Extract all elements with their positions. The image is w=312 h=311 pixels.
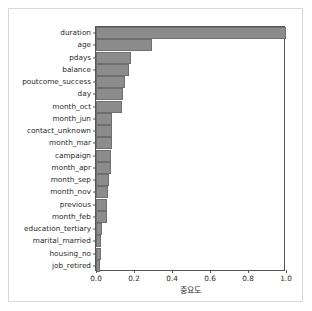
bar-row: month_jun [96,113,286,125]
bar-row: contact_unknown [96,125,286,137]
bar-row: month_apr [96,162,286,174]
y-tick-label-month_sep: month_sep [51,176,91,183]
y-tick-label-balance: balance [62,66,91,73]
bar-age [96,39,152,51]
bar-poutcome_success [96,76,125,88]
bar-pdays [96,52,131,64]
y-tick-mark [93,69,96,70]
y-tick-mark [93,180,96,181]
bar-row: pdays [96,52,286,64]
y-tick-label-poutcome_success: poutcome_success [22,78,91,85]
y-tick-mark [93,192,96,193]
y-tick-label-job_retired: job_retired [52,262,91,269]
bar-row: month_feb [96,211,286,223]
y-tick-label-day: day [78,91,91,98]
bar-month_feb [96,211,107,223]
y-tick-mark [93,167,96,168]
y-tick-label-marital_married: marital_married [33,238,91,245]
bar-row: day [96,88,286,100]
chart-axes: durationagepdaysbalancepoutcome_successd… [95,26,285,271]
x-tick-label: 0.0 [90,275,102,282]
x-axis-title: 중요도 [180,287,201,295]
x-tick-mark [210,270,211,273]
x-tick-label: 0.4 [166,275,178,282]
bar-campaign [96,150,111,162]
bar-row: job_retired [96,260,286,272]
bar-row: month_sep [96,174,286,186]
bar-contact_unknown [96,125,112,137]
x-tick-mark [172,270,173,273]
y-tick-mark [93,33,96,34]
x-tick-label: 0.2 [128,275,140,282]
bar-balance [96,64,129,76]
x-tick-label: 0.6 [204,275,216,282]
y-tick-mark [93,82,96,83]
y-tick-mark [93,241,96,242]
y-tick-label-campaign: campaign [55,152,91,159]
y-tick-mark [93,229,96,230]
bar-row: age [96,39,286,51]
y-tick-label-month_oct: month_oct [52,103,91,110]
bar-month_apr [96,162,111,174]
y-tick-mark [93,253,96,254]
bar-month_nov [96,186,108,198]
y-tick-mark [93,131,96,132]
y-tick-mark [93,155,96,156]
x-tick-mark [134,270,135,273]
x-tick-label: 0.8 [242,275,254,282]
x-tick-mark [96,270,97,273]
figure: durationagepdaysbalancepoutcome_successd… [0,0,312,311]
y-tick-label-duration: duration [60,29,91,36]
y-tick-mark [93,45,96,46]
y-tick-label-month_nov: month_nov [50,189,91,196]
y-tick-mark [93,118,96,119]
y-tick-label-age: age [77,42,91,49]
bar-row: month_oct [96,101,286,113]
bar-row: duration [96,27,286,39]
y-tick-label-month_feb: month_feb [52,213,91,220]
bar-day [96,88,123,100]
bar-row: campaign [96,150,286,162]
bar-month_jun [96,113,112,125]
y-tick-mark [93,57,96,58]
y-tick-label-month_apr: month_apr [52,164,91,171]
x-tick-label: 1.0 [280,275,292,282]
x-tick-mark [248,270,249,273]
bar-housing_no [96,248,101,260]
bar-row: previous [96,199,286,211]
bar-row: month_mar [96,137,286,149]
y-tick-label-pdays: pdays [69,54,91,61]
y-tick-mark [93,204,96,205]
y-tick-label-education_tertiary: education_tertiary [24,225,91,232]
bar-month_mar [96,137,112,149]
bar-duration [96,27,286,39]
bar-row: poutcome_success [96,76,286,88]
x-tick-mark [286,270,287,273]
y-tick-mark [93,216,96,217]
bar-previous [96,199,107,211]
bar-row: balance [96,64,286,76]
y-tick-mark [93,143,96,144]
plot-area: durationagepdaysbalancepoutcome_successd… [96,27,284,270]
bar-row: month_nov [96,186,286,198]
y-tick-label-contact_unknown: contact_unknown [27,127,91,134]
y-tick-mark [93,94,96,95]
y-tick-label-month_jun: month_jun [52,115,91,122]
bar-education_tertiary [96,223,102,235]
y-tick-mark [93,265,96,266]
bar-marital_married [96,235,101,247]
bar-row: marital_married [96,235,286,247]
bar-row: housing_no [96,248,286,260]
bar-row: education_tertiary [96,223,286,235]
y-tick-label-housing_no: housing_no [49,250,91,257]
bar-month_sep [96,174,109,186]
bar-month_oct [96,101,122,113]
y-tick-label-previous: previous [60,201,91,208]
y-tick-label-month_mar: month_mar [49,140,91,147]
y-tick-mark [93,106,96,107]
